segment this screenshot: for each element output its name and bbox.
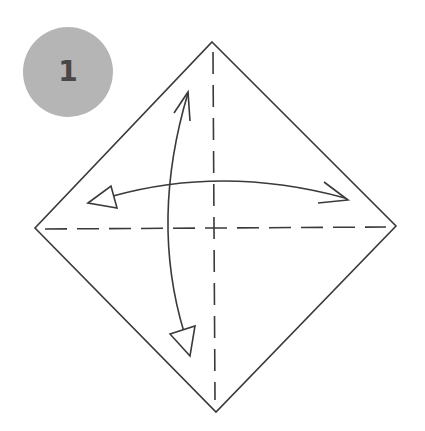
horizontal-arrow-shaft: [113, 181, 345, 198]
arrowhead-bottom-icon: [170, 326, 195, 356]
horizontal-valley-fold-line: [45, 227, 386, 229]
horizontal-fold-unfold-arrow: [88, 181, 348, 208]
vertical-fold-unfold-arrow: [168, 92, 195, 356]
arrowhead-left-icon: [88, 186, 117, 208]
vertical-arrow-shaft: [168, 93, 188, 332]
origami-diagram: [0, 0, 425, 431]
vertical-valley-fold-line: [213, 52, 215, 400]
